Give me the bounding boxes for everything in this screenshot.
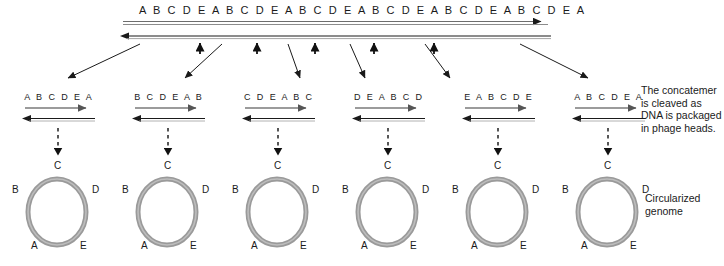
genome-segments bbox=[22, 108, 645, 122]
ring-label-top: C bbox=[494, 160, 501, 171]
segment-label-6: A B C D E A bbox=[569, 92, 649, 102]
concatemer-cleavage-diagram: A B C D E A B C D E A B C D E A B C D E … bbox=[0, 0, 724, 266]
distribution-arrows bbox=[68, 44, 588, 78]
ring-label-top: C bbox=[384, 160, 391, 171]
circularized-genome-ring bbox=[248, 179, 306, 245]
segment-label-2: B C D E A B bbox=[129, 92, 209, 102]
circularized-genome-ring bbox=[358, 179, 416, 245]
ring-label-lower-right: E bbox=[630, 240, 637, 251]
ring-label-upper-left: B bbox=[12, 184, 19, 195]
ring-label-upper-right: D bbox=[92, 184, 99, 195]
ring-label-lower-right: E bbox=[80, 240, 87, 251]
ring-label-upper-right: D bbox=[532, 184, 539, 195]
ring-label-top: C bbox=[54, 160, 61, 171]
circularization-arrows bbox=[58, 128, 608, 155]
distribution-arrow bbox=[425, 44, 450, 78]
genome-segment-duplex bbox=[132, 108, 205, 122]
circularized-genome-ring bbox=[138, 179, 196, 245]
genome-segment-duplex bbox=[462, 108, 535, 122]
distribution-arrow bbox=[185, 44, 222, 78]
segment-label-5: E A B C D E bbox=[459, 92, 539, 102]
genome-segment-duplex bbox=[352, 108, 425, 122]
ring-label-upper-right: D bbox=[312, 184, 319, 195]
diagram-vector-layer bbox=[0, 0, 724, 266]
circularized-genome-ring bbox=[578, 179, 636, 245]
cleavage-site-arrows bbox=[200, 43, 434, 54]
genome-segment-duplex bbox=[572, 108, 645, 122]
ring-label-top: C bbox=[164, 160, 171, 171]
ring-label-upper-left: B bbox=[122, 184, 129, 195]
circularized-genome-annotation: Circularized genome bbox=[645, 192, 723, 217]
ring-label-upper-right: D bbox=[202, 184, 209, 195]
circularized-genome-ring bbox=[468, 179, 526, 245]
distribution-arrow bbox=[68, 44, 140, 78]
segment-label-4: D E A B C D bbox=[349, 92, 429, 102]
circularized-genome-ring bbox=[28, 179, 86, 245]
segment-label-1: A B C D E A bbox=[19, 92, 99, 102]
ring-label-upper-left: B bbox=[452, 184, 459, 195]
ring-label-lower-right: E bbox=[300, 240, 307, 251]
ring-label-upper-left: B bbox=[342, 184, 349, 195]
cleavage-annotation: The concatemer is cleaved as DNA is pack… bbox=[641, 84, 724, 134]
ring-label-lower-left: A bbox=[31, 240, 38, 251]
ring-label-lower-right: E bbox=[410, 240, 417, 251]
ring-label-upper-left: B bbox=[232, 184, 239, 195]
ring-label-lower-left: A bbox=[141, 240, 148, 251]
ring-label-upper-left: B bbox=[562, 184, 569, 195]
ring-label-lower-left: A bbox=[361, 240, 368, 251]
ring-label-lower-right: E bbox=[520, 240, 527, 251]
ring-label-upper-right: D bbox=[422, 184, 429, 195]
segment-label-3: C D E A B C bbox=[239, 92, 319, 102]
distribution-arrow bbox=[350, 44, 365, 78]
ring-label-top: C bbox=[274, 160, 281, 171]
circularized-genome-rings bbox=[28, 179, 636, 245]
ring-label-lower-left: A bbox=[471, 240, 478, 251]
ring-label-top: C bbox=[604, 160, 611, 171]
ring-label-lower-right: E bbox=[190, 240, 197, 251]
distribution-arrow bbox=[288, 44, 300, 78]
distribution-arrow bbox=[520, 44, 588, 78]
ring-label-lower-left: A bbox=[581, 240, 588, 251]
concatemer-bottom-strand bbox=[120, 33, 551, 40]
genome-segment-duplex bbox=[242, 108, 315, 122]
concatemer-top-strand bbox=[123, 22, 548, 25]
genome-segment-duplex bbox=[22, 108, 95, 122]
ring-label-lower-left: A bbox=[251, 240, 258, 251]
